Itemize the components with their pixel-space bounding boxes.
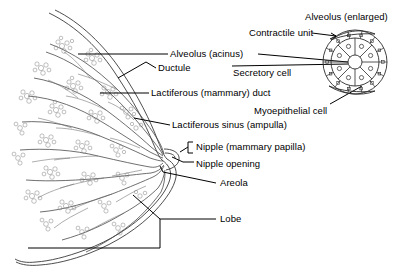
label-contractile-unit: Contractile unit xyxy=(249,27,313,38)
leader-ductule xyxy=(118,62,156,78)
leader-secretory-cell xyxy=(232,64,348,66)
label-alveolus-acinus: Alveolus (acinus) xyxy=(170,48,243,59)
label-lactiferous-duct: Lactiferous (mammary) duct xyxy=(151,87,271,98)
label-areola: Areola xyxy=(220,177,248,188)
secretory-cell-dividers xyxy=(331,38,379,86)
leader-alveolus-to-inset xyxy=(258,54,348,62)
leader-areola xyxy=(163,172,216,183)
leader-nipple-bracket xyxy=(188,142,193,153)
leader-contractile-unit xyxy=(312,33,336,39)
label-myoepithelial-cell: Myoepithelial cell xyxy=(254,105,327,116)
leader-lines xyxy=(28,54,362,248)
label-lactiferous-sinus: Lactiferous sinus (ampulla) xyxy=(172,119,287,130)
leader-myoepithelial-cell xyxy=(330,86,362,104)
alveolus-inset xyxy=(323,30,387,94)
label-nipple: Nipple (mammary papilla) xyxy=(196,141,305,152)
label-nipple-opening: Nipple opening xyxy=(196,158,260,169)
alveolus-lumen xyxy=(348,55,362,69)
contractile-unit-arcs xyxy=(329,31,375,94)
label-alveolus-enlarged: Alveolus (enlarged) xyxy=(305,11,388,22)
leader-nipple-stem xyxy=(180,147,188,152)
label-ductule: Ductule xyxy=(158,62,191,73)
breast-anatomy-figure: Alveolus (enlarged) Contractile unit Alv… xyxy=(0,0,406,276)
label-lobe: Lobe xyxy=(220,213,241,224)
label-secretory-cell: Secretory cell xyxy=(233,67,291,78)
anatomy-illustration xyxy=(0,0,406,276)
